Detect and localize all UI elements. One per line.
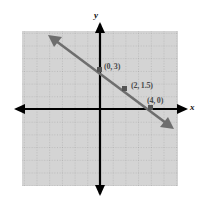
point-label-2-1.5: (2, 1.5) — [131, 82, 153, 90]
x-axis-label: x — [190, 103, 195, 112]
point-marker-2-1.5 — [122, 86, 127, 91]
point-marker-4-0 — [148, 105, 153, 110]
point-label-0-3: (0, 3) — [104, 63, 120, 71]
y-axis-label: y — [94, 11, 98, 20]
point-label-4-0: (4, 0) — [147, 97, 163, 105]
graph-figure: (0, 3) (2, 1.5) (4, 0) y x — [0, 0, 202, 209]
coordinate-plane-graphic — [0, 0, 202, 209]
point-marker-0-3 — [97, 67, 102, 72]
